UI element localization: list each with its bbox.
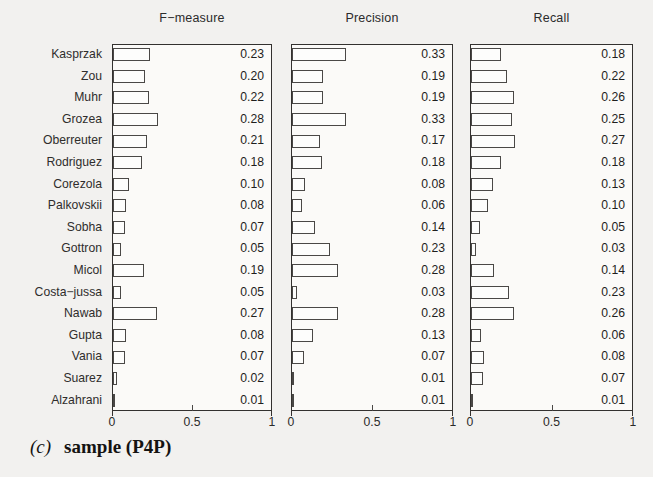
category-label: Rodriguez: [46, 152, 102, 174]
category-label: Muhr: [74, 87, 102, 109]
bar-value-label: 0.20: [112, 66, 264, 88]
bar-value-label: 0.06: [291, 195, 445, 217]
category-label: Grozea: [62, 109, 102, 131]
category-label: Alzahrani: [51, 390, 102, 412]
x-axis-tick-label: 0: [109, 415, 116, 429]
bar-value-label: 0.33: [291, 109, 445, 131]
x-axis-tick-label: 1: [630, 415, 637, 429]
category-label: Palkovskii: [48, 195, 102, 217]
bar-value-label: 0.14: [470, 260, 625, 282]
x-axis-tick-label: 0.5: [543, 415, 560, 429]
category-label: Kasprzak: [51, 44, 102, 66]
bar-value-label: 0.22: [112, 87, 264, 109]
bar-value-label: 0.08: [112, 325, 264, 347]
bar-value-label: 0.05: [470, 217, 625, 239]
bar-value-label: 0.13: [291, 325, 445, 347]
category-label: Gupta: [69, 325, 102, 347]
category-label: Micol: [74, 260, 102, 282]
bar-value-label: 0.18: [470, 152, 625, 174]
category-label: Suarez: [63, 368, 102, 390]
x-axis-tick-label: 0.5: [364, 415, 381, 429]
category-label: Oberreuter: [43, 130, 102, 152]
category-label: Zou: [81, 66, 102, 88]
bar-value-label: 0.33: [291, 44, 445, 66]
bar-value-label: 0.01: [470, 390, 625, 412]
category-label: Sobha: [67, 217, 102, 239]
bar-value-label: 0.19: [291, 66, 445, 88]
bar-value-label: 0.05: [112, 238, 264, 260]
bar-value-label: 0.22: [470, 66, 625, 88]
bar-value-label: 0.27: [470, 130, 625, 152]
bar-value-label: 0.05: [112, 282, 264, 304]
bar-value-label: 0.10: [112, 174, 264, 196]
bar-value-label: 0.03: [291, 282, 445, 304]
bar-value-label: 0.21: [112, 130, 264, 152]
panel-title: F−measure: [112, 11, 272, 25]
bar-value-label: 0.01: [112, 390, 264, 412]
bar-value-label: 0.19: [291, 87, 445, 109]
category-label: Nawab: [64, 303, 102, 325]
bar-value-label: 0.08: [291, 174, 445, 196]
category-label: Costa−jussa: [35, 282, 102, 304]
bar-value-label: 0.23: [470, 282, 625, 304]
bar-value-label: 0.28: [291, 303, 445, 325]
bar-value-label: 0.23: [291, 238, 445, 260]
figure-caption: (c)sample (P4P): [30, 436, 171, 458]
caption-index: (c): [30, 436, 51, 457]
bar-value-label: 0.25: [470, 109, 625, 131]
bar-value-label: 0.19: [112, 260, 264, 282]
bar-value-label: 0.26: [470, 303, 625, 325]
bar-value-label: 0.18: [112, 152, 264, 174]
caption-text: sample (P4P): [64, 436, 171, 457]
bar-value-label: 0.07: [112, 217, 264, 239]
x-axis-tick-label: 0.5: [184, 415, 201, 429]
bar-value-label: 0.08: [470, 346, 625, 368]
x-axis-tick-label: 0: [467, 415, 474, 429]
bar-value-label: 0.06: [470, 325, 625, 347]
category-label: Corezola: [53, 174, 102, 196]
bar-value-label: 0.10: [470, 195, 625, 217]
category-label: Gottron: [61, 238, 102, 260]
bar-value-label: 0.03: [470, 238, 625, 260]
bar-value-label: 0.18: [470, 44, 625, 66]
bar-value-label: 0.02: [112, 368, 264, 390]
bar-value-label: 0.07: [112, 346, 264, 368]
panel-title: Recall: [470, 11, 633, 25]
category-label: Vania: [72, 346, 102, 368]
x-axis-tick: [192, 405, 193, 411]
x-axis-tick-label: 0: [288, 415, 295, 429]
bar-value-label: 0.01: [291, 368, 445, 390]
category-axis-labels: KasprzakZouMuhrGrozeaOberreuterRodriguez…: [0, 44, 108, 411]
x-axis-tick-label: 1: [269, 415, 276, 429]
bar-value-label: 0.13: [470, 174, 625, 196]
bar-value-label: 0.07: [291, 346, 445, 368]
bar-value-label: 0.14: [291, 217, 445, 239]
bar-value-label: 0.07: [470, 368, 625, 390]
x-axis-tick-label: 1: [450, 415, 457, 429]
bar-value-label: 0.08: [112, 195, 264, 217]
bar-value-label: 0.28: [291, 260, 445, 282]
bar-value-label: 0.17: [291, 130, 445, 152]
bar-value-label: 0.26: [470, 87, 625, 109]
bar-value-label: 0.23: [112, 44, 264, 66]
panel-title: Precision: [291, 11, 453, 25]
x-axis-tick: [552, 405, 553, 411]
bar-value-label: 0.28: [112, 109, 264, 131]
figure-panel-c: KasprzakZouMuhrGrozeaOberreuterRodriguez…: [0, 0, 653, 477]
x-axis-tick: [372, 405, 373, 411]
bar-value-label: 0.27: [112, 303, 264, 325]
bar-value-label: 0.01: [291, 390, 445, 412]
bar-value-label: 0.18: [291, 152, 445, 174]
